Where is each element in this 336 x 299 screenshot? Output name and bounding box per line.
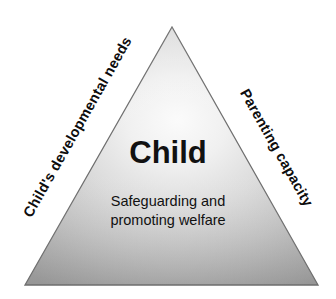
diagram-canvas: Child Safeguarding and promoting welfare… bbox=[0, 0, 336, 299]
